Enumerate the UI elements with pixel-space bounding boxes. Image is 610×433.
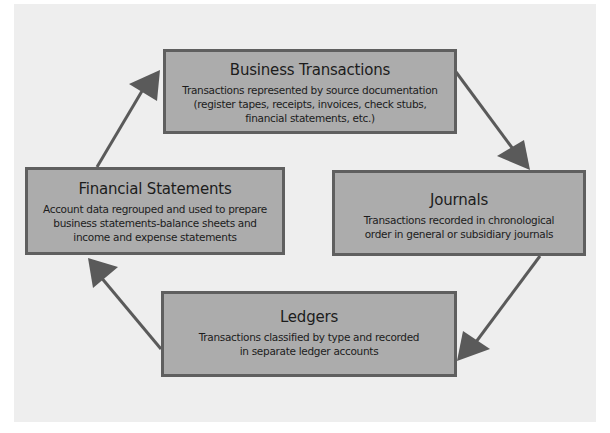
node-description-line: Transactions recorded in chronological [364, 213, 554, 227]
node-description-line: Transactions classified by type and reco… [199, 330, 420, 344]
node-title: Financial Statements [78, 180, 231, 198]
arrowhead-journals-icon [497, 140, 530, 170]
node-journals: Journals Transactions recorded in chrono… [332, 170, 586, 256]
node-financial-statements: Financial Statements Account data regrou… [25, 167, 285, 255]
arrowhead-financial-icon [88, 258, 118, 288]
node-description-line: in separate ledger accounts [240, 344, 379, 358]
arrow-business-to-journals [456, 72, 516, 153]
node-title: Journals [430, 191, 488, 209]
node-title: Ledgers [280, 308, 338, 326]
arrow-financial-to-business [97, 86, 145, 167]
node-title: Business Transactions [230, 61, 390, 79]
node-ledgers: Ledgers Transactions classified by type … [161, 291, 457, 377]
arrowhead-ledgers-icon [457, 331, 490, 361]
node-description-line: financial statements, etc.) [245, 111, 375, 125]
node-description-line: Account data regrouped and used to prepa… [43, 202, 267, 216]
node-description-line: (register tapes, receipts, invoices, che… [194, 97, 427, 111]
node-description-line: business statements-balance sheets and [53, 216, 256, 230]
node-business-transactions: Business Transactions Transactions repre… [163, 49, 457, 134]
node-description-line: Transactions represented by source docum… [182, 83, 437, 97]
arrow-ledgers-to-financial [100, 276, 161, 349]
node-description-line: income and expense statements [73, 230, 236, 244]
node-description-line: order in general or subsidiary journals [365, 227, 554, 241]
arrow-journals-to-ledgers [470, 256, 540, 350]
arrowhead-business-icon [129, 70, 160, 101]
